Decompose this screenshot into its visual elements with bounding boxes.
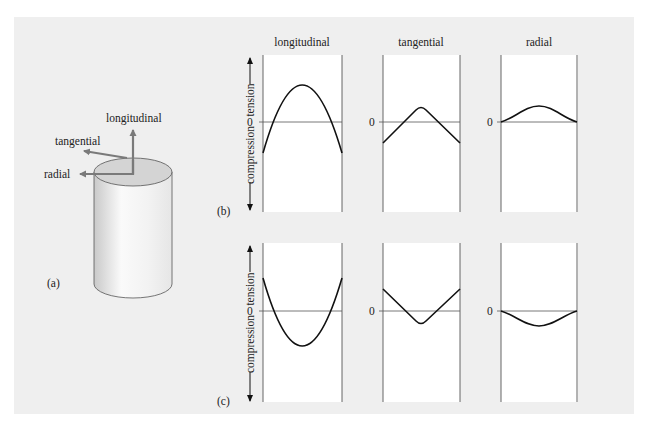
panel-b-longitudinal (263, 55, 342, 212)
zero-label-b-tangential: 0 (369, 116, 375, 128)
compression-label-c: compression (244, 315, 257, 373)
panel-c-longitudinal (263, 243, 342, 402)
zero-label-c-tangential: 0 (369, 305, 375, 317)
longitudinal-direction-label: longitudinal (106, 112, 162, 125)
zero-label-c-radial: 0 (487, 305, 493, 317)
panel-a-label: (a) (47, 277, 60, 290)
tension-label-b: tension (244, 83, 256, 116)
row-b-charts: 0 0 0 tension compression (b) (217, 55, 578, 218)
column-header-longitudinal: longitudinal (274, 36, 330, 49)
column-header-tangential: tangential (398, 36, 443, 49)
tension-label-c: tension (244, 272, 256, 305)
radial-direction-label: radial (44, 168, 70, 180)
cylinder-body (94, 172, 172, 298)
compression-label-b: compression (244, 126, 257, 184)
tangential-direction-label: tangential (55, 135, 100, 148)
zero-label-b-radial: 0 (487, 116, 493, 128)
panel-b-label: (b) (217, 205, 231, 218)
panel-b-tangential (383, 55, 460, 212)
row-c-charts: 0 0 0 tension compression (c) (217, 243, 578, 408)
panel-c-label: (c) (217, 395, 230, 408)
panel-b-radial (501, 55, 578, 212)
figure-canvas: longitudinal tangential radial (a) longi… (0, 0, 646, 431)
residual-stress-figure: longitudinal tangential radial (a) longi… (0, 0, 646, 431)
column-header-radial: radial (526, 36, 552, 48)
panel-c-tangential (383, 243, 460, 402)
panel-c-radial (501, 243, 578, 402)
